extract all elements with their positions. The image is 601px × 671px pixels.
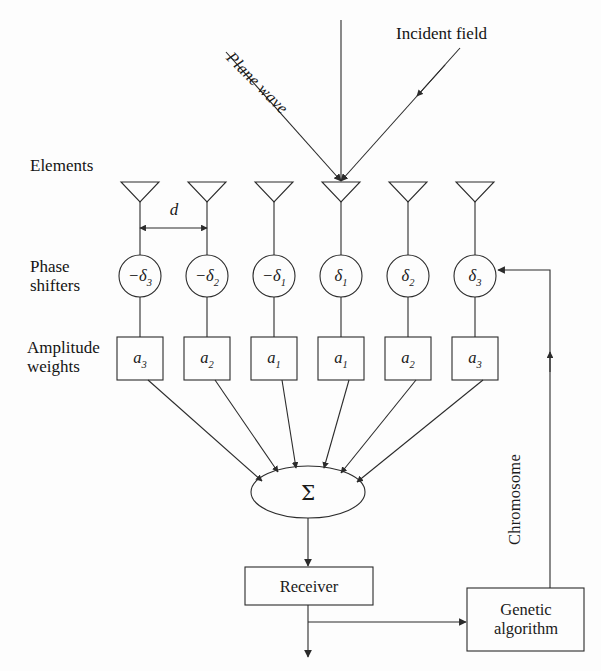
phase-shifter-3-label: −δ1 bbox=[262, 266, 286, 287]
amplitude-weight-3-label: a1 bbox=[267, 348, 281, 369]
antenna-element-6[interactable] bbox=[456, 182, 494, 255]
phase-shifters-group bbox=[119, 255, 496, 297]
amplitude-weight-4-label: a1 bbox=[334, 348, 348, 369]
phase-shifters-row-label-line2: shifters bbox=[30, 276, 80, 295]
elements-row-label: Elements bbox=[30, 156, 93, 175]
genetic-algorithm-label-line2: algorithm bbox=[494, 620, 558, 639]
amplitude-weight-1-label: a3 bbox=[133, 348, 147, 369]
phase-shifters-row-label-line1: Phase bbox=[30, 257, 80, 276]
antenna-element-5[interactable] bbox=[389, 182, 427, 255]
diagram-svg bbox=[0, 0, 601, 671]
amplitude-weight-6-label: a3 bbox=[468, 348, 482, 369]
phase-shifter-2-label: −δ2 bbox=[195, 266, 219, 287]
figure-canvas: Incident field Plane wave Chromosome Ele… bbox=[0, 0, 601, 671]
chromosome-label: Chromosome bbox=[505, 454, 525, 545]
amplitude-weights-row-label: Amplitude weights bbox=[27, 338, 100, 376]
phase-shifter-6-label: δ3 bbox=[469, 266, 482, 287]
amplitude-weight-2-label: a2 bbox=[200, 348, 214, 369]
amplitude-weights-row-label-line1: Amplitude bbox=[27, 338, 100, 357]
spacing-label: d bbox=[170, 200, 179, 220]
antenna-element-3[interactable] bbox=[255, 182, 293, 255]
amplitude-weights-row-label-line2: weights bbox=[27, 357, 100, 376]
phase-shifter-1-label: −δ3 bbox=[128, 266, 152, 287]
phase-shifter-4-label: δ1 bbox=[335, 266, 348, 287]
antenna-element-4[interactable] bbox=[322, 182, 360, 255]
genetic-algorithm-label: Genetic algorithm bbox=[494, 601, 558, 639]
phase-shifter-5-label: δ2 bbox=[402, 266, 415, 287]
amplitude-weight-boxes-group bbox=[117, 337, 498, 380]
genetic-algorithm-label-line1: Genetic bbox=[494, 601, 558, 620]
ps-to-aw-connectors bbox=[140, 297, 475, 337]
incident-field-ray-midarrow bbox=[417, 65, 445, 96]
amplitude-weight-5-label: a2 bbox=[401, 348, 415, 369]
antenna-element-2[interactable] bbox=[188, 182, 226, 255]
incident-field-label: Incident field bbox=[396, 24, 487, 43]
antenna-element-1[interactable] bbox=[121, 182, 159, 255]
summation-symbol: Σ bbox=[301, 481, 315, 505]
receiver-label: Receiver bbox=[280, 578, 339, 597]
phase-shifters-row-label: Phase shifters bbox=[30, 257, 80, 295]
